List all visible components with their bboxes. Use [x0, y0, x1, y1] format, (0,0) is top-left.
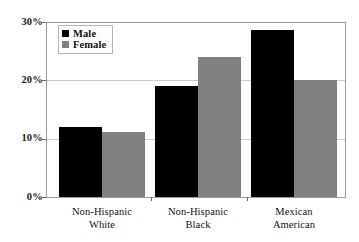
y-axis-label-0: 0%	[3, 192, 43, 203]
x-axis-label-mexican-american: Mexican American	[238, 205, 350, 231]
bar-mexican-american-female	[294, 80, 337, 197]
y-axis-label-30: 30%	[3, 17, 43, 28]
bar-group-non-hispanic-black	[155, 23, 241, 197]
legend-entry-female: Female	[62, 39, 106, 50]
x-axis-tick-2	[247, 197, 248, 201]
legend: Male Female	[58, 25, 113, 54]
bar-non-hispanic-black-male	[155, 86, 198, 197]
legend-label-male: Male	[73, 28, 96, 39]
bar-non-hispanic-black-female	[198, 57, 241, 197]
bar-group-mexican-american	[251, 23, 337, 197]
x-axis-label-line-2: American	[238, 218, 350, 231]
x-axis-tick-1	[151, 197, 152, 201]
bar-non-hispanic-white-male	[59, 127, 102, 197]
y-axis-label-10: 10%	[3, 133, 43, 144]
legend-entry-male: Male	[62, 28, 106, 39]
legend-label-female: Female	[73, 39, 106, 50]
x-axis-label-line-1: Mexican	[238, 205, 350, 218]
bar-non-hispanic-white-female	[102, 132, 145, 197]
y-axis-label-20: 20%	[3, 75, 43, 86]
bar-mexican-american-male	[251, 30, 294, 197]
gray-square-swatch-icon	[62, 41, 69, 48]
bar-chart: 30% 20% 10% 0% Non-Hispanic White	[0, 0, 359, 242]
black-square-swatch-icon	[62, 30, 69, 37]
